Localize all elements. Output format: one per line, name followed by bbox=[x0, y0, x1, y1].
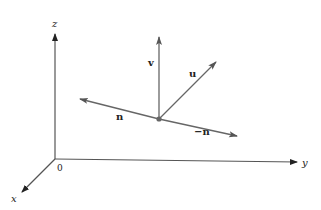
vector-u-label: u bbox=[189, 68, 196, 79]
y-axis-label: y bbox=[301, 157, 308, 168]
vector-diagram: z y x 0 v u n −n bbox=[0, 0, 321, 210]
vector-v-label: v bbox=[147, 57, 155, 68]
z-axis-label: z bbox=[51, 18, 58, 29]
vector-neg-n-label: −n bbox=[194, 126, 210, 137]
y-axis bbox=[55, 159, 297, 162]
base-point bbox=[156, 116, 161, 121]
vector-u-arrow bbox=[159, 62, 216, 119]
vector-n-label: n bbox=[116, 111, 124, 122]
x-axis bbox=[22, 159, 55, 192]
origin-label: 0 bbox=[57, 163, 63, 173]
vectors bbox=[80, 37, 237, 136]
x-axis-label: x bbox=[11, 193, 17, 204]
